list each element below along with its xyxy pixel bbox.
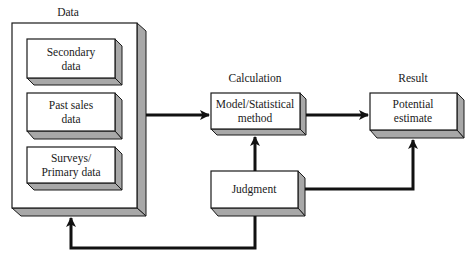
section-label-calculation: Calculation [228,72,281,84]
secondary-data-label-line2: data [61,60,80,72]
potential-label-line1: Potential [393,98,434,110]
potential-label-line2: estimate [394,112,432,124]
past-sales-data-box: Past sales data [27,93,122,139]
secondary-data-box: Secondary data [27,39,122,85]
section-label-data: Data [57,6,79,18]
model-label-line1: Model/Statistical [216,98,295,110]
model-statistical-method-box: Model/Statistical method [211,93,306,135]
surveys-label-line2: Primary data [41,166,100,179]
past-sales-label-line1: Past sales [49,99,94,111]
arrow-judgment-to-data [71,216,255,248]
potential-estimate-box: Potential estimate [370,93,464,138]
arrow-judgment-to-potential [305,140,413,189]
model-label-line2: method [238,112,273,124]
surveys-primary-data-box: Surveys/ Primary data [27,147,122,190]
surveys-label-line1: Surveys/ [51,152,92,165]
judgment-label: Judgment [232,183,278,196]
section-label-result: Result [398,72,428,84]
diagram-canvas: Data Calculation Result Secondary data P… [0,0,476,263]
judgment-box: Judgment [211,171,305,216]
past-sales-label-line2: data [61,113,80,125]
secondary-data-label-line1: Secondary [47,46,96,59]
